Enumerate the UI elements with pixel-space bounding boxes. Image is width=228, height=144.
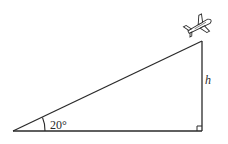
right-angle-marker bbox=[197, 126, 202, 131]
triangle-diagram: 20° h bbox=[0, 0, 228, 144]
hypotenuse bbox=[13, 41, 202, 131]
angle-label: 20° bbox=[50, 118, 67, 132]
airplane-icon bbox=[182, 11, 215, 41]
height-label: h bbox=[205, 73, 211, 87]
angle-arc bbox=[43, 118, 46, 132]
